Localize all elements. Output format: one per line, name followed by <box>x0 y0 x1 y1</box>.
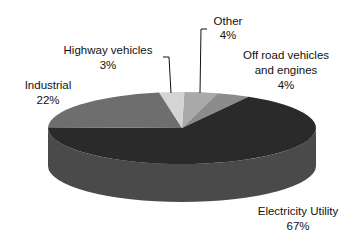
label-highway-name: Highway vehicles <box>64 44 153 56</box>
label-offroad-name-1: Off road vehicles <box>243 49 329 61</box>
label-highway-pct: 3% <box>100 59 117 71</box>
label-industrial-pct: 22% <box>36 94 59 106</box>
label-other-pct: 4% <box>220 29 237 41</box>
label-offroad-pct: 4% <box>278 79 295 91</box>
pie-chart: Other 4% Off road vehicles and engines 4… <box>0 0 364 244</box>
label-highway: Highway vehicles 3% <box>64 44 153 71</box>
label-other-name: Other <box>214 15 243 27</box>
leader-line-highway <box>163 57 171 93</box>
label-offroad: Off road vehicles and engines 4% <box>243 49 329 91</box>
label-other: Other 4% <box>214 15 243 41</box>
label-electricity: Electricity Utility 67% <box>258 205 339 232</box>
pie-slice-industrial <box>48 93 182 128</box>
label-industrial-name: Industrial <box>25 79 72 91</box>
label-industrial: Industrial 22% <box>25 79 72 106</box>
leader-lines <box>163 29 207 93</box>
label-electricity-pct: 67% <box>286 220 309 232</box>
leader-line-other <box>200 29 207 93</box>
label-electricity-name: Electricity Utility <box>258 205 339 217</box>
pie-slices <box>48 92 316 164</box>
label-offroad-name-2: and engines <box>255 64 318 76</box>
